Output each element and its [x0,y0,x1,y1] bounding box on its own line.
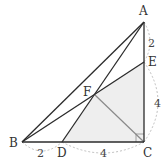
measure-DC: 4 [100,147,107,160]
measure-EC: 4 [154,97,161,110]
geometry-diagram: A E C B D F 2 4 2 4 [0,0,168,166]
label-F: F [83,85,91,99]
label-B: B [9,136,18,150]
label-E: E [148,55,157,69]
measure-AE: 2 [148,37,155,50]
label-A: A [138,4,148,18]
label-D: D [57,146,67,160]
measure-BD: 2 [37,147,44,160]
diagram-svg: A E C B D F 2 4 2 4 [0,0,168,166]
label-C: C [143,146,152,160]
